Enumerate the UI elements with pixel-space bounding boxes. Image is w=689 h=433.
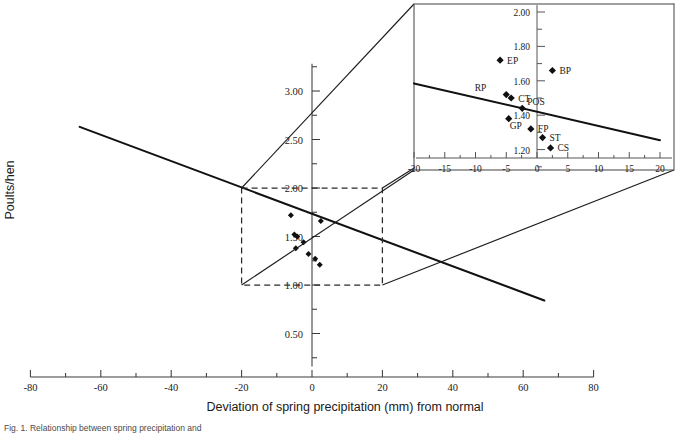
x-axis-tick-label: 80 — [588, 382, 599, 393]
x-axis-tick-label: -60 — [94, 382, 108, 393]
x-axis-tick-label: -20 — [235, 382, 249, 393]
callout-line-bottom-right — [382, 170, 674, 285]
inset-x-axis-tick-label: 10 — [594, 164, 604, 174]
inset-y-axis-tick-label: 1.80 — [513, 42, 530, 52]
data-point-fp — [305, 251, 311, 257]
inset-x-axis-tick-label: -5 — [502, 164, 510, 174]
y-axis-title: Poults/hen — [3, 160, 17, 219]
x-axis-title: Deviation of spring precipitation (mm) f… — [206, 400, 483, 414]
inset-x-axis-tick-label: 5 — [565, 164, 570, 174]
inset-point-label-st: ST — [550, 133, 561, 143]
data-point-ep — [288, 212, 294, 218]
x-axis-tick-label: -80 — [23, 382, 37, 393]
inset-x-axis-tick-label: -15 — [438, 164, 451, 174]
callout-line-top-left — [242, 4, 414, 188]
magnified-detail-panel: -20-15-10-5051015201.201.401.601.802.00E… — [408, 0, 674, 174]
inset-y-axis-tick-label: 1.20 — [513, 146, 530, 156]
figure-caption: Fig. 1. Relationship between spring prec… — [4, 423, 202, 433]
inset-frame — [414, 4, 674, 170]
figure-container: -80-60-40-200204060800.501.001.502.002.5… — [0, 0, 689, 433]
x-axis-tick-label: 20 — [377, 382, 388, 393]
data-point-cs — [317, 262, 323, 268]
y-axis-tick-label: 3.00 — [285, 86, 303, 97]
inset-x-axis-tick-label: -10 — [469, 164, 482, 174]
inset-x-axis-tick-label: 15 — [625, 164, 635, 174]
inset-x-axis-tick-label: 0 — [535, 164, 540, 174]
x-axis-tick-label: 60 — [518, 382, 529, 393]
inset-point-label-pos: POS — [527, 97, 544, 107]
x-axis-tick-label: 0 — [309, 382, 314, 393]
inset-point-label-rp: RP — [475, 83, 487, 93]
inset-y-axis-tick-label: 1.60 — [513, 77, 530, 87]
inset-y-axis-tick-label: 2.00 — [513, 8, 530, 18]
scientific-figure: -80-60-40-200204060800.501.001.502.002.5… — [0, 0, 689, 433]
data-point-bp — [318, 218, 324, 224]
y-axis-tick-label: 0.50 — [285, 329, 303, 340]
inset-x-axis-tick-label: -20 — [408, 164, 421, 174]
inset-point-label-bp: BP — [559, 66, 571, 76]
inset-point-label-fp: FP — [538, 124, 549, 134]
inset-x-axis-tick-label: 20 — [655, 164, 665, 174]
x-axis-tick-label: 40 — [448, 382, 459, 393]
inset-point-label-cs: CS — [558, 143, 570, 153]
y-axis-tick-label: 2.50 — [285, 135, 303, 146]
inset-point-label-gp: GP — [510, 121, 522, 131]
inset-point-label-ep: EP — [507, 56, 518, 66]
callout-line-bottom-left — [242, 170, 414, 285]
x-axis-tick-label: -40 — [164, 382, 178, 393]
